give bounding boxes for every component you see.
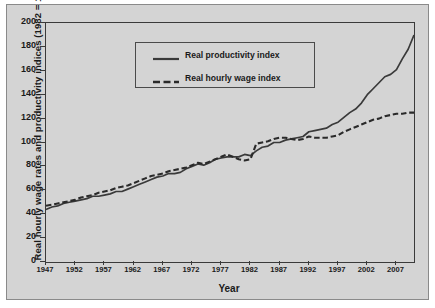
y-tick-label: 100: [12, 137, 36, 146]
y-tick-label: 160: [12, 65, 36, 74]
legend-line-dashed-icon: [153, 77, 179, 87]
legend-swatch-solid: [153, 50, 179, 60]
y-tick-label: 0: [12, 256, 36, 265]
x-tick-mark: [220, 261, 221, 265]
legend-line-solid-icon: [153, 54, 179, 64]
x-tick-mark: [279, 261, 280, 265]
x-tick-mark: [45, 261, 46, 265]
legend-item-wage: Real hourly wage index: [136, 66, 314, 89]
y-tick-label: 120: [12, 113, 36, 122]
y-tick-label: 200: [12, 17, 36, 26]
y-tick-label: 60: [12, 184, 36, 193]
x-tick-mark: [191, 261, 192, 265]
x-tick-mark: [162, 261, 163, 265]
y-tick-label: 20: [12, 232, 36, 241]
x-tick-label: 2007: [377, 266, 413, 274]
y-tick-label: 40: [12, 208, 36, 217]
x-tick-mark: [395, 261, 396, 265]
y-tick-label: 80: [12, 160, 36, 169]
y-tick-label: 140: [12, 89, 36, 98]
x-tick-mark: [337, 261, 338, 265]
legend-item-productivity: Real productivity index: [136, 43, 314, 66]
x-tick-mark: [308, 261, 309, 265]
x-tick-mark: [249, 261, 250, 265]
x-tick-mark: [103, 261, 104, 265]
legend-label-productivity: Real productivity index: [185, 50, 280, 60]
chart-legend: Real productivity index Real hourly wage…: [135, 42, 315, 88]
y-tick-label: 180: [12, 41, 36, 50]
x-axis-title: Year: [45, 283, 413, 294]
x-tick-mark: [74, 261, 75, 265]
series-line-wage: [46, 113, 414, 206]
legend-label-wage: Real hourly wage index: [185, 73, 281, 83]
x-tick-mark: [133, 261, 134, 265]
x-tick-mark: [366, 261, 367, 265]
legend-swatch-dashed: [153, 73, 179, 83]
chart-figure: Real hourly wage rates and productivity …: [0, 0, 435, 308]
